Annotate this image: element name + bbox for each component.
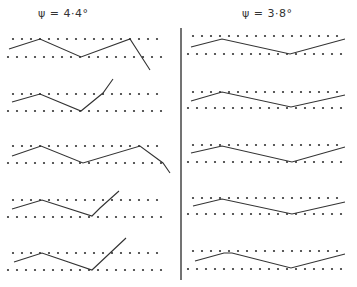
dot bbox=[30, 199, 32, 201]
dot bbox=[57, 145, 59, 147]
dot bbox=[79, 216, 81, 218]
dot bbox=[228, 250, 230, 252]
dot bbox=[277, 213, 279, 215]
dot bbox=[102, 199, 104, 201]
trace-line bbox=[12, 79, 113, 111]
dot bbox=[102, 145, 104, 147]
dot bbox=[106, 56, 108, 58]
dot bbox=[291, 197, 293, 199]
dot bbox=[291, 91, 293, 93]
dot bbox=[66, 38, 68, 40]
dot bbox=[273, 35, 275, 37]
dot bbox=[246, 250, 248, 252]
dot bbox=[313, 213, 315, 215]
dot bbox=[142, 216, 144, 218]
dot bbox=[66, 199, 68, 201]
dot bbox=[340, 107, 342, 109]
dot bbox=[147, 252, 149, 254]
trace-line bbox=[12, 146, 170, 173]
dot bbox=[7, 216, 9, 218]
dot bbox=[70, 162, 72, 164]
dot bbox=[313, 161, 315, 163]
dot bbox=[210, 35, 212, 37]
dot bbox=[250, 213, 252, 215]
pattern-row bbox=[187, 197, 345, 215]
dot bbox=[102, 38, 104, 40]
dot bbox=[160, 269, 162, 271]
dot bbox=[160, 110, 162, 112]
dot bbox=[43, 56, 45, 58]
dot bbox=[295, 268, 297, 270]
dot bbox=[21, 199, 23, 201]
dot bbox=[264, 144, 266, 146]
dot bbox=[88, 110, 90, 112]
dot bbox=[264, 250, 266, 252]
dot bbox=[210, 144, 212, 146]
dot bbox=[57, 38, 59, 40]
dot bbox=[7, 110, 9, 112]
dot bbox=[322, 161, 324, 163]
dot bbox=[232, 107, 234, 109]
trace-line bbox=[191, 92, 345, 107]
dot bbox=[300, 35, 302, 37]
dot bbox=[84, 199, 86, 201]
dot bbox=[286, 268, 288, 270]
dot bbox=[52, 110, 54, 112]
dot bbox=[232, 213, 234, 215]
dot bbox=[318, 35, 320, 37]
dot bbox=[151, 162, 153, 164]
dot bbox=[16, 162, 18, 164]
dot bbox=[232, 161, 234, 163]
dot bbox=[111, 38, 113, 40]
dot bbox=[12, 145, 14, 147]
dot bbox=[327, 91, 329, 93]
trace-line bbox=[193, 199, 345, 214]
dot bbox=[277, 161, 279, 163]
dot bbox=[241, 53, 243, 55]
dot bbox=[318, 250, 320, 252]
dot bbox=[111, 199, 113, 201]
dot bbox=[52, 162, 54, 164]
dot bbox=[282, 91, 284, 93]
dot bbox=[340, 161, 342, 163]
dot bbox=[187, 268, 189, 270]
dot bbox=[115, 56, 117, 58]
dot bbox=[291, 35, 293, 37]
dot bbox=[70, 110, 72, 112]
dot bbox=[124, 56, 126, 58]
dot bbox=[66, 145, 68, 147]
dot bbox=[147, 38, 149, 40]
dot bbox=[237, 250, 239, 252]
dot bbox=[61, 269, 63, 271]
dot bbox=[273, 144, 275, 146]
dot bbox=[241, 107, 243, 109]
trace-line bbox=[195, 253, 345, 268]
dot bbox=[52, 269, 54, 271]
dot bbox=[57, 93, 59, 95]
dot bbox=[25, 216, 27, 218]
dot bbox=[57, 199, 59, 201]
dot bbox=[102, 252, 104, 254]
dot bbox=[318, 197, 320, 199]
dot bbox=[223, 161, 225, 163]
dot bbox=[291, 144, 293, 146]
dot bbox=[309, 250, 311, 252]
dot bbox=[201, 197, 203, 199]
pattern-row bbox=[7, 238, 162, 271]
dot bbox=[43, 216, 45, 218]
pattern-row bbox=[7, 38, 162, 70]
dot bbox=[336, 35, 338, 37]
dot bbox=[151, 56, 153, 58]
dot bbox=[97, 56, 99, 58]
dot bbox=[21, 93, 23, 95]
dot bbox=[322, 107, 324, 109]
dot bbox=[322, 53, 324, 55]
dot bbox=[138, 199, 140, 201]
pattern-row bbox=[7, 191, 162, 218]
dot bbox=[30, 38, 32, 40]
dot bbox=[115, 110, 117, 112]
dot bbox=[205, 213, 207, 215]
dot bbox=[313, 107, 315, 109]
dot bbox=[151, 216, 153, 218]
dot bbox=[124, 216, 126, 218]
